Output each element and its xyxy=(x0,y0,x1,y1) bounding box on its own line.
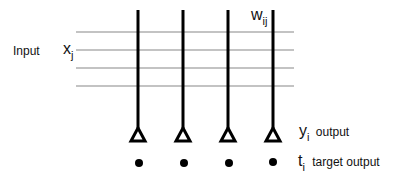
y-var: y xyxy=(299,122,307,139)
t-sub: i xyxy=(302,161,304,173)
output-text: output xyxy=(316,125,349,139)
output-columns xyxy=(138,10,273,128)
w-sub: ij xyxy=(263,15,268,27)
target-dots xyxy=(135,158,277,167)
input-lines xyxy=(76,32,294,86)
x-j-label: xj xyxy=(63,40,73,58)
y-i-output-label: yi output xyxy=(299,122,349,140)
input-label: Input xyxy=(13,44,40,58)
t-i-target-label: ti target output xyxy=(298,152,380,170)
target-output-text: target output xyxy=(312,155,379,169)
output-unit-triangles xyxy=(131,128,280,141)
x-var: x xyxy=(63,40,71,57)
w-var: w xyxy=(251,6,263,23)
w-ij-label: wij xyxy=(251,6,267,24)
